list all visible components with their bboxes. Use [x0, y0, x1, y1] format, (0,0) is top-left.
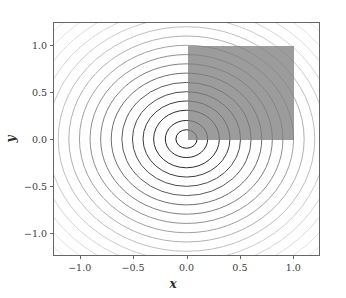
y-tick-mark: [50, 92, 53, 93]
figure: −1.0−0.50.00.51.0 −1.0−0.50.00.51.0 x y: [0, 0, 346, 298]
contour-ring: [101, 64, 273, 214]
contour-ring: [69, 36, 304, 242]
contour-ring: [54, 23, 319, 255]
y-axis-label: y: [4, 136, 18, 143]
x-tick-mark: [187, 256, 188, 259]
y-tick-mark: [50, 233, 53, 234]
contour-ring: [90, 55, 283, 224]
contour-ring: [54, 23, 319, 255]
y-tick-label: 0.5: [15, 87, 47, 98]
y-tick-mark: [50, 45, 53, 46]
contour-ring: [54, 23, 319, 255]
contour-ring: [54, 23, 319, 255]
x-tick-mark: [293, 256, 294, 259]
contour-ring: [132, 92, 240, 187]
plot-axes: [53, 22, 320, 256]
x-tick-label: 1.0: [286, 262, 301, 273]
x-tick-label: 0.0: [179, 262, 194, 273]
y-tick-mark: [50, 186, 53, 187]
contour-ring: [58, 27, 315, 252]
y-tick-label: −1.0: [15, 227, 47, 238]
y-tick-label: 1.0: [15, 40, 47, 51]
y-tick-label: 0.0: [15, 134, 47, 145]
y-tick-mark: [50, 139, 53, 140]
x-tick-label: 0.5: [232, 262, 247, 273]
x-tick-label: −1.0: [68, 262, 91, 273]
x-tick-mark: [80, 256, 81, 259]
y-tick-label: −0.5: [15, 180, 47, 191]
x-axis-label: x: [0, 277, 346, 291]
x-tick-label: −0.5: [122, 262, 145, 273]
contour-ring: [165, 120, 207, 157]
contour-ring: [111, 73, 262, 205]
x-tick-mark: [133, 256, 134, 259]
contour-ring: [176, 130, 197, 149]
contour-plot: [54, 23, 319, 255]
contour-ring: [143, 101, 230, 177]
contour-ring: [154, 110, 220, 168]
contour-ring: [122, 82, 251, 195]
contour-ring: [54, 23, 319, 255]
contour-ring: [54, 23, 319, 255]
x-tick-mark: [240, 256, 241, 259]
